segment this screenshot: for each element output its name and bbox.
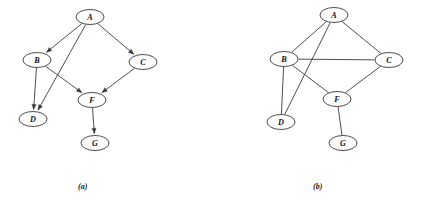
node-A[interactable]: A [320,8,348,23]
edge-A-B [292,22,327,52]
node-label-B: B [33,56,40,65]
edge-B-D [32,68,37,110]
edge-B-D [281,67,283,114]
edge-A-C [342,22,381,54]
node-C[interactable]: C [129,55,157,70]
arrowhead [32,104,36,109]
graph-b: ABCDFG [210,0,421,175]
panel-b: ABCDFG [210,0,421,202]
caption-b: (b) [313,182,322,191]
node-label-D: D [29,115,36,124]
node-label-G: G [340,139,346,148]
node-B[interactable]: B [23,53,51,68]
edge-A-C [98,24,134,55]
edge-C-F [102,68,134,92]
node-D[interactable]: D [19,112,47,127]
figure-container: ABCDFG ABCDFG (a) (b) [0,0,421,202]
node-label-C: C [140,58,146,67]
node-label-D: D [277,118,284,127]
node-G[interactable]: G [81,136,109,151]
node-C[interactable]: C [375,53,403,68]
arrowhead [76,88,81,93]
edge-C-F [346,66,381,92]
edge-B-C [299,59,375,60]
edge-A-B [46,24,81,53]
node-label-F: F [333,95,340,104]
node-label-A: A [86,13,93,22]
panel-a: ABCDFG [0,0,210,202]
arrowhead [92,128,96,133]
node-B[interactable]: B [270,52,298,67]
node-F[interactable]: F [323,92,351,107]
node-F[interactable]: F [78,93,106,108]
caption-a: (a) [78,182,87,191]
arrowhead [102,88,107,93]
node-label-F: F [88,96,95,105]
node-label-G: G [92,139,98,148]
node-label-A: A [330,11,337,20]
node-label-B: B [280,55,287,64]
node-A[interactable]: A [76,10,104,25]
node-label-C: C [386,56,392,65]
node-D[interactable]: D [267,115,295,130]
edge-F-G [92,108,96,134]
node-G[interactable]: G [329,136,357,151]
graph-a: ABCDFG [0,0,210,175]
edge-F-G [338,107,342,135]
edge-B-F [46,66,82,92]
arrowhead [38,104,42,110]
